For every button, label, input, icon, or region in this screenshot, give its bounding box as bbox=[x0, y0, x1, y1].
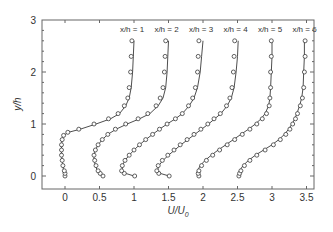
y-axis-label: y/h bbox=[12, 97, 23, 112]
measured-point-marker bbox=[60, 153, 64, 157]
measured-point-marker bbox=[239, 169, 243, 173]
measured-point-marker bbox=[62, 133, 66, 137]
computed-profile-line bbox=[122, 41, 203, 176]
measured-point-marker bbox=[138, 143, 142, 147]
measured-point-marker bbox=[60, 143, 64, 147]
measured-point-marker bbox=[146, 112, 150, 116]
measured-point-marker bbox=[225, 104, 229, 108]
measured-point-marker bbox=[165, 122, 169, 126]
measured-point-marker bbox=[162, 70, 166, 74]
profile-series: x/h = 5 bbox=[196, 25, 282, 178]
measured-point-marker bbox=[269, 86, 273, 90]
x-tick-label: 2.5 bbox=[231, 192, 245, 203]
measured-point-marker bbox=[127, 153, 131, 157]
measured-point-marker bbox=[154, 104, 158, 108]
measured-point-marker bbox=[123, 158, 127, 162]
measured-point-marker bbox=[204, 158, 208, 162]
measured-point-marker bbox=[267, 104, 271, 108]
profile-series: x/h = 1 bbox=[60, 25, 145, 178]
measured-point-marker bbox=[116, 112, 120, 116]
profile-series: x/h = 6 bbox=[237, 25, 317, 178]
profile-series: x/h = 4 bbox=[155, 25, 248, 178]
measured-point-marker bbox=[231, 70, 235, 74]
measured-point-marker bbox=[260, 117, 264, 121]
measured-point-marker bbox=[151, 132, 155, 136]
measured-point-marker bbox=[173, 117, 177, 121]
measured-point-marker bbox=[133, 174, 137, 178]
measured-point-marker bbox=[230, 86, 234, 90]
measured-point-marker bbox=[160, 158, 164, 162]
measured-point-marker bbox=[144, 138, 148, 142]
measured-point-marker bbox=[129, 54, 133, 58]
measured-point-marker bbox=[93, 158, 97, 162]
measured-point-marker bbox=[126, 96, 130, 100]
measured-point-marker bbox=[120, 164, 124, 168]
measured-point-marker bbox=[271, 143, 275, 147]
x-tick-label: 3.5 bbox=[300, 192, 314, 203]
x-tick-label: 2 bbox=[200, 192, 206, 203]
measured-point-marker bbox=[130, 39, 134, 43]
measured-point-marker bbox=[62, 169, 66, 173]
measured-point-marker bbox=[196, 70, 200, 74]
series-label: x/h = 3 bbox=[189, 25, 214, 34]
measured-point-marker bbox=[187, 104, 191, 108]
measured-point-marker bbox=[225, 143, 229, 147]
axes-frame bbox=[42, 20, 314, 189]
measured-point-marker bbox=[122, 104, 126, 108]
measured-point-marker bbox=[302, 70, 306, 74]
measured-point-marker bbox=[303, 54, 307, 58]
measured-point-marker bbox=[255, 153, 259, 157]
x-tick-label: 0 bbox=[62, 192, 68, 203]
measured-point-marker bbox=[302, 86, 306, 90]
measured-point-marker bbox=[263, 148, 267, 152]
series-label: x/h = 2 bbox=[154, 25, 179, 34]
velocity-profile-chart: x/h = 1x/h = 2x/h = 3x/h = 4x/h = 5x/h =… bbox=[0, 0, 333, 232]
measured-point-marker bbox=[197, 169, 201, 173]
measured-point-marker bbox=[161, 86, 165, 90]
measured-point-marker bbox=[233, 138, 237, 142]
measured-point-marker bbox=[96, 169, 100, 173]
measured-point-marker bbox=[268, 96, 272, 100]
measured-point-marker bbox=[284, 132, 288, 136]
measured-point-marker bbox=[291, 122, 295, 126]
measured-point-marker bbox=[255, 122, 259, 126]
measured-point-marker bbox=[197, 39, 201, 43]
measured-point-marker bbox=[232, 54, 236, 58]
measured-point-marker bbox=[248, 127, 252, 131]
x-tick-label: 1.5 bbox=[162, 192, 176, 203]
measured-point-marker bbox=[120, 169, 124, 173]
measured-point-marker bbox=[172, 148, 176, 152]
measured-point-marker bbox=[92, 153, 96, 157]
measured-point-marker bbox=[206, 122, 210, 126]
series-label: x/h = 5 bbox=[258, 25, 283, 34]
x-tick-label: 0.5 bbox=[93, 192, 107, 203]
measured-point-marker bbox=[192, 132, 196, 136]
measured-point-marker bbox=[265, 112, 269, 116]
measured-point-marker bbox=[185, 138, 189, 142]
y-tick-label: 3 bbox=[30, 15, 36, 26]
measured-point-marker bbox=[124, 122, 128, 126]
measured-point-marker bbox=[288, 127, 292, 131]
measured-point-marker bbox=[92, 122, 96, 126]
plot-area: x/h = 1x/h = 2x/h = 3x/h = 4x/h = 5x/h =… bbox=[60, 25, 318, 178]
measured-point-marker bbox=[106, 132, 110, 136]
measured-point-marker bbox=[66, 130, 70, 134]
measured-point-marker bbox=[212, 117, 216, 121]
measured-point-marker bbox=[191, 96, 195, 100]
measured-point-marker bbox=[60, 148, 64, 152]
measured-point-marker bbox=[113, 127, 117, 131]
measured-point-marker bbox=[298, 104, 302, 108]
measured-point-marker bbox=[77, 127, 81, 131]
measured-point-marker bbox=[156, 164, 160, 168]
x-axis-label: U/U0 bbox=[167, 205, 188, 218]
measured-point-marker bbox=[233, 39, 237, 43]
measured-point-marker bbox=[96, 143, 100, 147]
measured-point-marker bbox=[269, 39, 273, 43]
x-tick-label: 3 bbox=[269, 192, 275, 203]
measured-point-marker bbox=[242, 164, 246, 168]
series-label: x/h = 1 bbox=[120, 25, 145, 34]
measured-point-marker bbox=[60, 138, 64, 142]
measured-point-marker bbox=[248, 158, 252, 162]
y-tick-label: 0 bbox=[30, 171, 36, 182]
computed-profile-line bbox=[198, 41, 273, 176]
